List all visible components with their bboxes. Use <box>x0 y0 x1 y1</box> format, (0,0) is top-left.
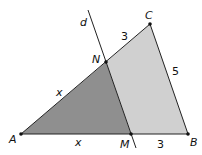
label-an: x <box>55 86 63 99</box>
label-b: B <box>190 136 198 149</box>
point-c <box>148 22 152 26</box>
label-cb: 5 <box>172 65 179 78</box>
point-a <box>19 132 23 136</box>
point-m <box>129 132 133 136</box>
label-m: M <box>120 138 130 151</box>
geometry-diagram: A M B C N d x x 3 3 5 <box>0 0 202 155</box>
label-c: C <box>145 9 153 22</box>
point-n <box>104 60 108 64</box>
label-am: x <box>74 136 82 149</box>
label-mb: 3 <box>157 138 164 151</box>
label-n: N <box>92 53 100 66</box>
label-a: A <box>8 133 17 146</box>
label-nc: 3 <box>121 30 128 43</box>
label-d: d <box>80 16 88 29</box>
